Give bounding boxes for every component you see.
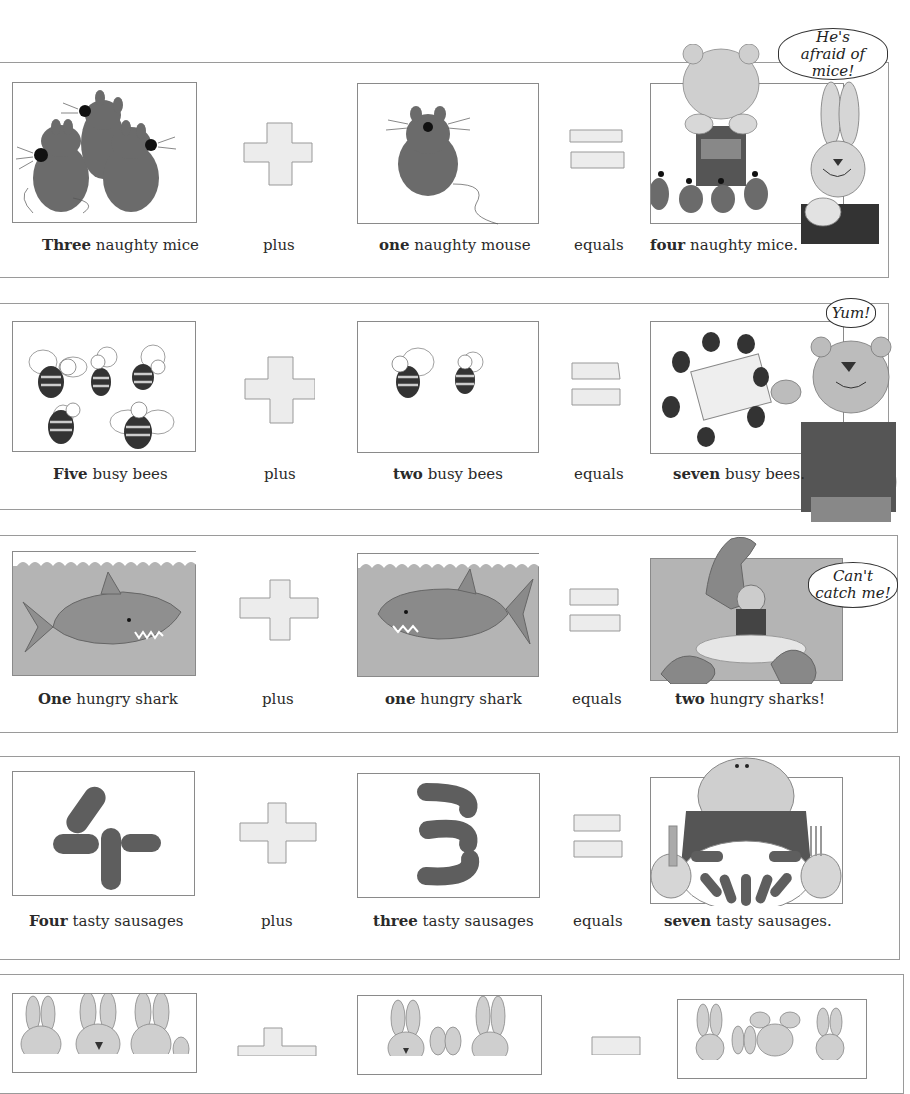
equals-sign: [568, 587, 624, 637]
five-bees-illustration: [13, 322, 197, 453]
speech-bubble-afraid-of-mice: He's afraid of mice!: [778, 28, 888, 80]
picture-rabbits-group-3: [677, 999, 867, 1079]
crocodile-plate-illustration: [651, 756, 844, 906]
picture-rabbits-group-1: [12, 993, 197, 1073]
bees-cake-bear-illustration: [651, 322, 901, 522]
picture-three-mice: [12, 82, 197, 223]
operator-plus-label: plus: [261, 912, 293, 930]
result-label: seven busy bees.: [673, 465, 805, 483]
plus-sign: [243, 355, 315, 429]
equals-sign: [572, 813, 626, 863]
speech-text: He's afraid of mice!: [793, 29, 873, 80]
operator-plus-label: plus: [262, 690, 294, 708]
picture-rabbits-group-2: [357, 995, 542, 1075]
result-label: four naughty mice.: [650, 236, 798, 254]
plus-sign: [238, 801, 318, 869]
speech-text: Can't catch me!: [813, 568, 893, 602]
picture-two-bees: [357, 321, 539, 453]
speech-text: Yum!: [832, 305, 871, 322]
term2-label: one naughty mouse: [379, 236, 531, 254]
picture-seven-bees-with-bear: [650, 321, 844, 454]
picture-four-mice-with-bear: [650, 83, 844, 224]
one-mouse-illustration: [358, 84, 540, 225]
picture-one-mouse: [357, 83, 539, 224]
equals-sign: [570, 361, 624, 411]
shark-illustration: [13, 552, 197, 677]
sausage-number-three-illustration: [358, 774, 541, 899]
picture-four-sausages: [12, 771, 195, 896]
result-label: seven tasty sausages.: [664, 912, 832, 930]
three-mice-illustration: [13, 83, 198, 224]
term2-label: one hungry shark: [385, 690, 522, 708]
island-bear-sharks-illustration: [651, 524, 844, 684]
speech-bubble-yum: Yum!: [826, 298, 876, 328]
plus-sign: [236, 1026, 318, 1060]
operator-plus-label: plus: [264, 465, 296, 483]
term1-label: Five busy bees: [53, 465, 168, 483]
picture-one-shark: [12, 551, 196, 676]
rabbits-illustration: [358, 996, 543, 1056]
operator-equals-label: equals: [574, 236, 624, 254]
term2-label: three tasty sausages: [373, 912, 534, 930]
picture-five-bees: [12, 321, 196, 452]
equals-sign: [590, 1035, 646, 1059]
rabbits-illustration: [13, 994, 198, 1054]
operator-plus-label: plus: [263, 236, 295, 254]
shark-illustration: [358, 554, 540, 678]
operator-equals-label: equals: [572, 690, 622, 708]
rabbits-illustration: [678, 1000, 868, 1060]
sausage-number-four-illustration: [13, 772, 196, 897]
picture-three-sausages: [357, 773, 540, 898]
result-label: two hungry sharks!: [675, 690, 825, 708]
picture-seven-sausages-with-crocodile: [650, 777, 843, 904]
term1-label: One hungry shark: [38, 690, 178, 708]
term1-label: Four tasty sausages: [29, 912, 183, 930]
speech-bubble-cant-catch-me: Can't catch me!: [808, 562, 898, 608]
equals-sign: [568, 128, 626, 178]
two-bees-illustration: [358, 322, 540, 454]
plus-sign: [238, 578, 320, 646]
term2-label: two busy bees: [393, 465, 503, 483]
term1-label: Three naughty mice: [42, 236, 199, 254]
operator-equals-label: equals: [573, 912, 623, 930]
plus-sign: [242, 121, 314, 191]
picture-one-shark-2: [357, 553, 539, 677]
operator-equals-label: equals: [574, 465, 624, 483]
